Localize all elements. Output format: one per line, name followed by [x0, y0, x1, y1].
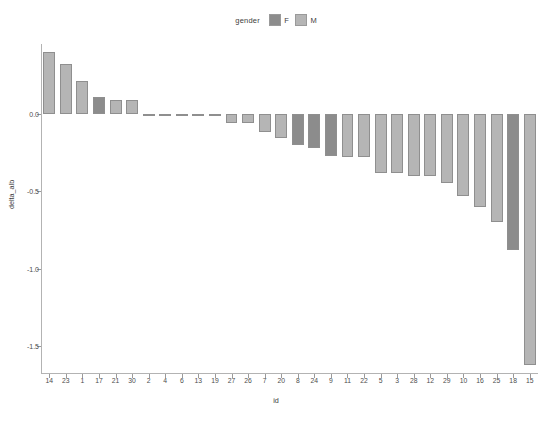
- legend-entry-f[interactable]: F: [269, 14, 289, 26]
- x-tick-label: 30: [128, 377, 136, 384]
- legend-entry-m[interactable]: M: [295, 14, 317, 26]
- x-tick-label: 20: [277, 377, 285, 384]
- x-tick-label: 1: [81, 377, 85, 384]
- legend-swatch-f: [269, 14, 281, 26]
- bar[interactable]: [126, 100, 138, 114]
- y-tick-label: -1.0: [27, 265, 39, 272]
- x-tick-label: 17: [95, 377, 103, 384]
- x-tick-label: 10: [460, 377, 468, 384]
- bar[interactable]: [226, 114, 238, 123]
- bar[interactable]: [441, 114, 453, 184]
- x-tick-label: 12: [427, 377, 435, 384]
- legend-title: gender: [235, 16, 260, 25]
- x-tick-label: 4: [163, 377, 167, 384]
- x-tick-label: 28: [410, 377, 418, 384]
- x-tick-label: 27: [228, 377, 236, 384]
- bar[interactable]: [259, 114, 271, 133]
- bar[interactable]: [275, 114, 287, 139]
- x-tick-label: 11: [344, 377, 351, 384]
- x-tick-label: 9: [329, 377, 333, 384]
- y-axis-title: delta_alb: [7, 180, 16, 209]
- x-tick-label: 21: [112, 377, 120, 384]
- plot-area: 0.0-0.5-1.0-1.5 142311721302461319272672…: [41, 44, 538, 374]
- x-tick-label: 25: [493, 377, 501, 384]
- bar[interactable]: [474, 114, 486, 207]
- bar[interactable]: [242, 114, 254, 123]
- bar[interactable]: [424, 114, 436, 176]
- x-tick-label: 22: [360, 377, 368, 384]
- bar[interactable]: [507, 114, 519, 250]
- bar[interactable]: [408, 114, 420, 176]
- bar[interactable]: [358, 114, 370, 157]
- x-tick-label: 19: [211, 377, 219, 384]
- y-tick-label: -1.5: [27, 343, 39, 350]
- bar[interactable]: [342, 114, 354, 157]
- x-tick-label: 26: [244, 377, 252, 384]
- x-tick-label: 7: [263, 377, 267, 384]
- bar[interactable]: [93, 97, 105, 114]
- bar[interactable]: [375, 114, 387, 173]
- x-tick-label: 3: [395, 377, 399, 384]
- bar[interactable]: [192, 114, 204, 116]
- legend-label-m: M: [310, 16, 316, 25]
- bar[interactable]: [76, 81, 88, 114]
- x-tick-label: 15: [526, 377, 534, 384]
- x-tick-label: 8: [296, 377, 300, 384]
- plot-panel: 0.0-0.5-1.0-1.5 142311721302461319272672…: [41, 44, 538, 374]
- bar[interactable]: [308, 114, 320, 148]
- legend-swatch-m: [295, 14, 307, 26]
- x-tick-label: 5: [379, 377, 383, 384]
- bar[interactable]: [176, 114, 188, 116]
- x-axis-title: id: [0, 396, 552, 405]
- x-tick-label: 2: [147, 377, 151, 384]
- bar-chart: gender F M 0.0-0.5-1.0-1.5 1423117213024…: [0, 0, 552, 428]
- x-tick-label: 6: [180, 377, 184, 384]
- bar[interactable]: [325, 114, 337, 156]
- x-tick-label: 16: [476, 377, 484, 384]
- x-tick-label: 13: [195, 377, 203, 384]
- bar[interactable]: [292, 114, 304, 145]
- x-tick-label: 14: [46, 377, 54, 384]
- y-tick-label: 0.0: [29, 110, 39, 117]
- bar[interactable]: [491, 114, 503, 222]
- x-tick-label: 23: [62, 377, 70, 384]
- bar[interactable]: [457, 114, 469, 196]
- y-tick-label: -0.5: [27, 188, 39, 195]
- x-tick-label: 29: [443, 377, 451, 384]
- bar[interactable]: [60, 64, 72, 114]
- x-tick-label: 24: [311, 377, 319, 384]
- bar[interactable]: [524, 114, 536, 365]
- bar[interactable]: [209, 114, 221, 116]
- chart-legend: gender F M: [0, 14, 552, 26]
- bar[interactable]: [159, 114, 171, 116]
- bar[interactable]: [110, 100, 122, 114]
- x-tick-label: 18: [509, 377, 517, 384]
- bars-layer: [41, 44, 538, 374]
- bar[interactable]: [43, 52, 55, 114]
- bar[interactable]: [391, 114, 403, 173]
- legend-label-f: F: [284, 16, 289, 25]
- bar[interactable]: [143, 114, 155, 116]
